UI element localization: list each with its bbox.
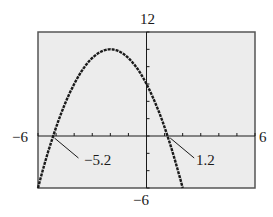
- x-max-label: 6: [259, 130, 267, 145]
- y-min-label: −6: [133, 193, 149, 208]
- graphing-calculator-plot: [0, 0, 273, 217]
- x-min-label: −6: [12, 130, 28, 145]
- y-max-label: 12: [140, 12, 155, 27]
- zero-left-label: −5.2: [84, 153, 111, 168]
- zero-right-label: 1.2: [196, 153, 215, 168]
